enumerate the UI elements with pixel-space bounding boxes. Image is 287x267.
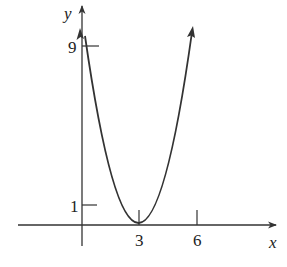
parabola-curve — [85, 32, 192, 223]
tick-label-y-1: 1 — [70, 198, 79, 215]
arrow-left-icon — [77, 28, 85, 40]
parabola-graph — [0, 0, 287, 267]
tick-label-y-9: 9 — [68, 39, 77, 56]
x-axis-label: x — [269, 234, 277, 251]
y-axis-label: y — [64, 5, 72, 22]
tick-label-x-3: 3 — [135, 232, 144, 249]
tick-label-x-6: 6 — [193, 232, 202, 249]
